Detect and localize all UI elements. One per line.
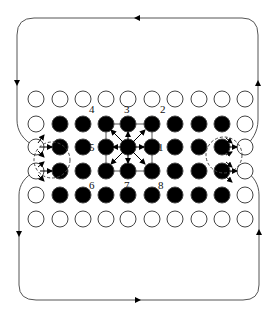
filled-node [167,139,183,155]
top-right-up-arrow-icon [255,80,261,86]
empty-node [52,91,68,107]
label-3: 3 [124,103,130,115]
bottom-left-down-arrow-icon [16,231,22,237]
label-8: 8 [158,179,164,191]
filled-node [98,116,114,132]
filled-node [98,187,114,203]
empty-node [191,211,207,227]
filled-node [214,187,230,203]
filled-node [191,116,207,132]
empty-node [237,211,253,227]
label-6: 6 [89,179,95,191]
empty-node [191,91,207,107]
filled-node [52,187,68,203]
empty-node [120,211,136,227]
filled-node [98,163,114,179]
lattice-flow-diagram: 4 3 2 5 1 6 7 8 [0,0,274,320]
empty-node [167,211,183,227]
empty-node [214,211,230,227]
empty-node [98,91,114,107]
top-left-down-arrow-icon [14,80,20,86]
empty-node [237,139,253,155]
empty-node [28,116,44,132]
empty-node [237,116,253,132]
filled-node [214,116,230,132]
empty-node [28,91,44,107]
arrow-to-4 [111,130,124,143]
filled-node [191,163,207,179]
filled-node [214,139,230,155]
arrow-to-8 [132,151,145,164]
empty-node [98,211,114,227]
filled-node [120,163,136,179]
empty-node [167,91,183,107]
arrow-to-6 [111,151,124,164]
empty-node [28,211,44,227]
empty-node [144,91,160,107]
top-loop-arrow-icon [134,15,140,21]
filled-node [167,163,183,179]
filled-node [167,187,183,203]
filled-node [120,116,136,132]
filled-node [144,116,160,132]
filled-node [52,139,68,155]
filled-node [144,163,160,179]
bottom-right-up-arrow-icon [256,229,262,235]
filled-node [75,116,91,132]
label-5: 5 [89,141,95,153]
empty-node [52,211,68,227]
bottom-loop-arrow-icon [135,297,141,303]
filled-node [191,139,207,155]
empty-node [144,211,160,227]
label-4: 4 [89,103,95,115]
empty-node [28,187,44,203]
filled-node [52,116,68,132]
filled-node [98,139,114,155]
empty-node [237,91,253,107]
filled-node [191,187,207,203]
filled-node [167,116,183,132]
empty-node [214,91,230,107]
empty-node [237,187,253,203]
label-2: 2 [160,103,166,115]
filled-node [75,163,91,179]
empty-node [237,163,253,179]
label-7: 7 [124,179,130,191]
empty-node [75,211,91,227]
label-1: 1 [158,141,164,153]
arrow-to-2 [132,130,145,143]
